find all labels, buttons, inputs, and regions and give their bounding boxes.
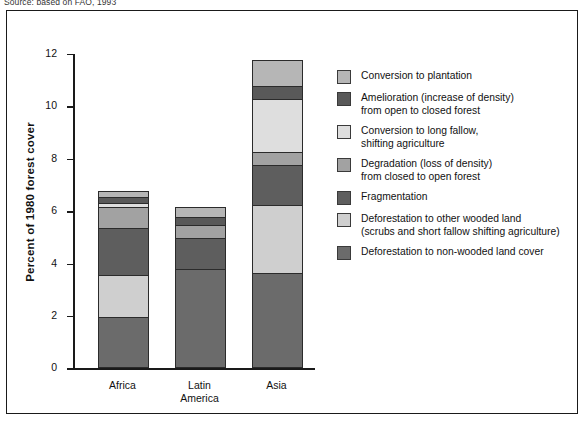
y-tick-mark [67,54,75,55]
bar-segment [99,276,148,318]
bar-segment [253,61,302,87]
y-tick-2: 2 [7,316,75,317]
legend-label-line: from open to closed forest [361,104,514,117]
bar-segment [253,166,302,207]
bar-segment [253,274,302,367]
legend-item-degradation[interactable]: Degradation (loss of density)from closed… [337,157,577,183]
legend-label-line: (scrubs and short fallow shifting agricu… [361,225,560,238]
legend-swatch-icon [337,92,351,106]
legend-label-line: Deforestation to non-wooded land cover [361,245,544,258]
legend-item-conversion-to-long-fallow[interactable]: Conversion to long fallow,shifting agric… [337,124,577,150]
bar-segment [176,218,225,226]
legend-item-fragmentation[interactable]: Fragmentation [337,190,577,205]
plot-area: Percent of 1980 forest cover 121086420 A… [7,11,579,415]
bar-segment [99,208,148,229]
bar-africa [98,191,149,369]
source-note: Source: based on FAO, 1993 [4,0,116,7]
legend-label: Conversion to plantation [361,69,472,82]
y-tick-10: 10 [7,106,75,107]
y-tick-mark [67,264,75,265]
bar-segment [99,318,148,368]
bar-segment [99,229,148,276]
y-tick-label: 8 [27,153,57,164]
bar-segment [253,153,302,166]
bar-segment [176,239,225,270]
bar-segment [253,87,302,100]
y-tick-mark [67,159,75,160]
bar-segment [253,100,302,152]
y-tick-mark [67,368,75,369]
legend-swatch-icon [337,125,351,139]
legend-swatch-icon [337,191,351,205]
legend-label: Fragmentation [361,190,427,203]
y-tick-label: 12 [27,48,57,59]
chart-legend: Conversion to plantationAmelioration (in… [337,69,577,267]
y-tick-label: 2 [27,310,57,321]
y-tick-label: 0 [27,362,57,373]
x-label-line: Africa [80,379,165,392]
legend-label: Deforestation to non-wooded land cover [361,245,544,258]
legend-item-deforestation-non-wooded[interactable]: Deforestation to non-wooded land cover [337,245,577,260]
y-tick-mark [67,211,75,212]
y-tick-mark [67,106,75,107]
x-label-asia: Asia [234,379,319,392]
x-label-latin: LatinAmerica [157,379,242,404]
y-axis-title: Percent of 1980 forest cover [24,102,36,302]
y-tick-mark [67,316,75,317]
bar-asia [252,60,303,369]
legend-label-line: Conversion to long fallow, [361,124,478,137]
legend-label: Degradation (loss of density)from closed… [361,157,492,183]
legend-label-line: Deforestation to other wooded land [361,212,560,225]
x-label-line: America [157,392,242,405]
bar-segment [176,208,225,218]
legend-swatch-icon [337,246,351,260]
bar-latin-america [175,207,226,369]
legend-label-line: Conversion to plantation [361,69,472,82]
x-label-line: Latin [157,379,242,392]
y-tick-0: 0 [7,368,75,369]
legend-label-line: Fragmentation [361,190,427,203]
legend-item-deforestation-other-wooded[interactable]: Deforestation to other wooded land(scrub… [337,212,577,238]
legend-label-line: shifting agriculture [361,137,478,150]
legend-label-line: Degradation (loss of density) [361,157,492,170]
legend-label: Amelioration (increase of density)from o… [361,91,514,117]
legend-swatch-icon [337,213,351,227]
y-tick-label: 4 [27,258,57,269]
y-tick-label: 6 [27,205,57,216]
legend-label-line: from closed to open forest [361,170,492,183]
legend-item-conversion-to-plantation[interactable]: Conversion to plantation [337,69,577,84]
legend-label: Deforestation to other wooded land(scrub… [361,212,560,238]
x-label-africa: Africa [80,379,165,392]
legend-label-line: Amelioration (increase of density) [361,91,514,104]
y-tick-4: 4 [7,264,75,265]
bar-segment [253,206,302,274]
y-tick-12: 12 [7,54,75,55]
legend-swatch-icon [337,158,351,172]
figure-frame: Percent of 1980 forest cover 121086420 A… [6,10,578,414]
y-tick-label: 10 [27,100,57,111]
legend-item-amelioration[interactable]: Amelioration (increase of density)from o… [337,91,577,117]
bar-segment [176,270,225,367]
x-axis-line [73,368,315,370]
y-tick-6: 6 [7,211,75,212]
y-tick-8: 8 [7,159,75,160]
x-label-line: Asia [234,379,319,392]
legend-swatch-icon [337,70,351,84]
legend-label: Conversion to long fallow,shifting agric… [361,124,478,150]
bar-segment [176,226,225,239]
